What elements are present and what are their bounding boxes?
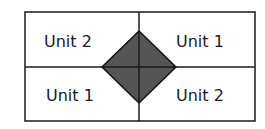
unit-grid-diagram: Unit 2 Unit 1 Unit 1 Unit 2 (0, 0, 265, 129)
cell-top-right-label: Unit 1 (176, 32, 224, 51)
cell-bottom-left-label: Unit 1 (46, 86, 94, 105)
cell-bottom-right-label: Unit 2 (176, 86, 224, 105)
cell-top-left-label: Unit 2 (44, 32, 92, 51)
